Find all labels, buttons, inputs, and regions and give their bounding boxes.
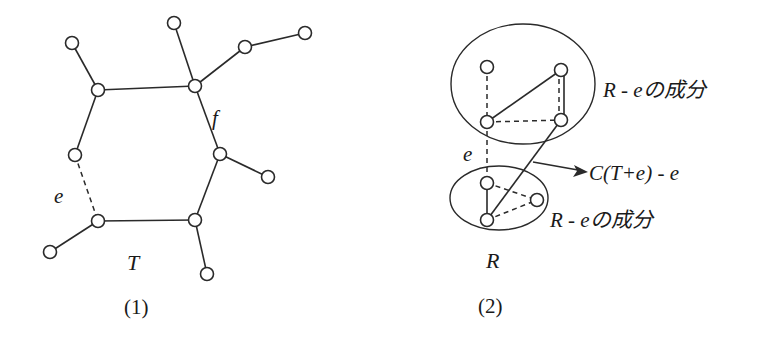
graph-node <box>481 177 494 190</box>
edge-dashed <box>487 120 561 122</box>
graph-node <box>555 114 568 127</box>
caption-2: (2) <box>478 294 503 318</box>
edge-f-label: f <box>212 106 221 130</box>
graph-node <box>189 80 202 93</box>
edge <box>75 90 98 155</box>
graph-node <box>44 246 57 259</box>
edge <box>195 220 207 274</box>
graph-node <box>66 37 79 50</box>
edge <box>72 43 98 90</box>
edge <box>487 70 561 122</box>
edge-e-dashed <box>75 155 98 221</box>
graph-diagram-2: R - eの成分 e C(T+e) - e R - eの成分 R (2) <box>450 24 708 318</box>
edge-e-label: e <box>463 142 472 166</box>
graph-node <box>214 148 227 161</box>
caption-1: (1) <box>124 295 149 319</box>
graph-node <box>92 215 105 228</box>
edge <box>195 154 220 220</box>
graph-node <box>299 27 312 40</box>
edge <box>98 86 195 90</box>
edge <box>174 23 195 86</box>
arrow-line <box>533 162 578 170</box>
cycle-label: C(T+e) - e <box>589 161 679 185</box>
graph-node <box>69 149 82 162</box>
edge <box>245 33 305 47</box>
edge <box>195 47 245 86</box>
graph-node <box>481 61 494 74</box>
graph-node <box>481 116 494 129</box>
graph-node <box>168 17 181 30</box>
graph-node <box>531 194 544 207</box>
graph-node <box>262 171 275 184</box>
tree-diagram-1: f e T (1) <box>44 17 312 320</box>
diagram-canvas: f e T (1) R - eの成分 e <box>0 0 764 348</box>
graph-node <box>189 214 202 227</box>
tree-label: T <box>127 250 141 275</box>
component-top-label: R - eの成分 <box>602 78 708 102</box>
graph-node <box>239 41 252 54</box>
edge-e-label: e <box>54 184 63 208</box>
arrow-head-icon <box>573 165 588 177</box>
edge <box>98 220 195 221</box>
component-bottom-label: R - eの成分 <box>549 208 655 232</box>
graph-node <box>92 84 105 97</box>
graph-node <box>201 268 214 281</box>
graph-label: R <box>485 248 500 273</box>
component-ellipse-top <box>451 24 595 144</box>
graph-node <box>481 214 494 227</box>
edge <box>220 154 268 177</box>
edge <box>50 221 98 252</box>
graph-node <box>555 64 568 77</box>
